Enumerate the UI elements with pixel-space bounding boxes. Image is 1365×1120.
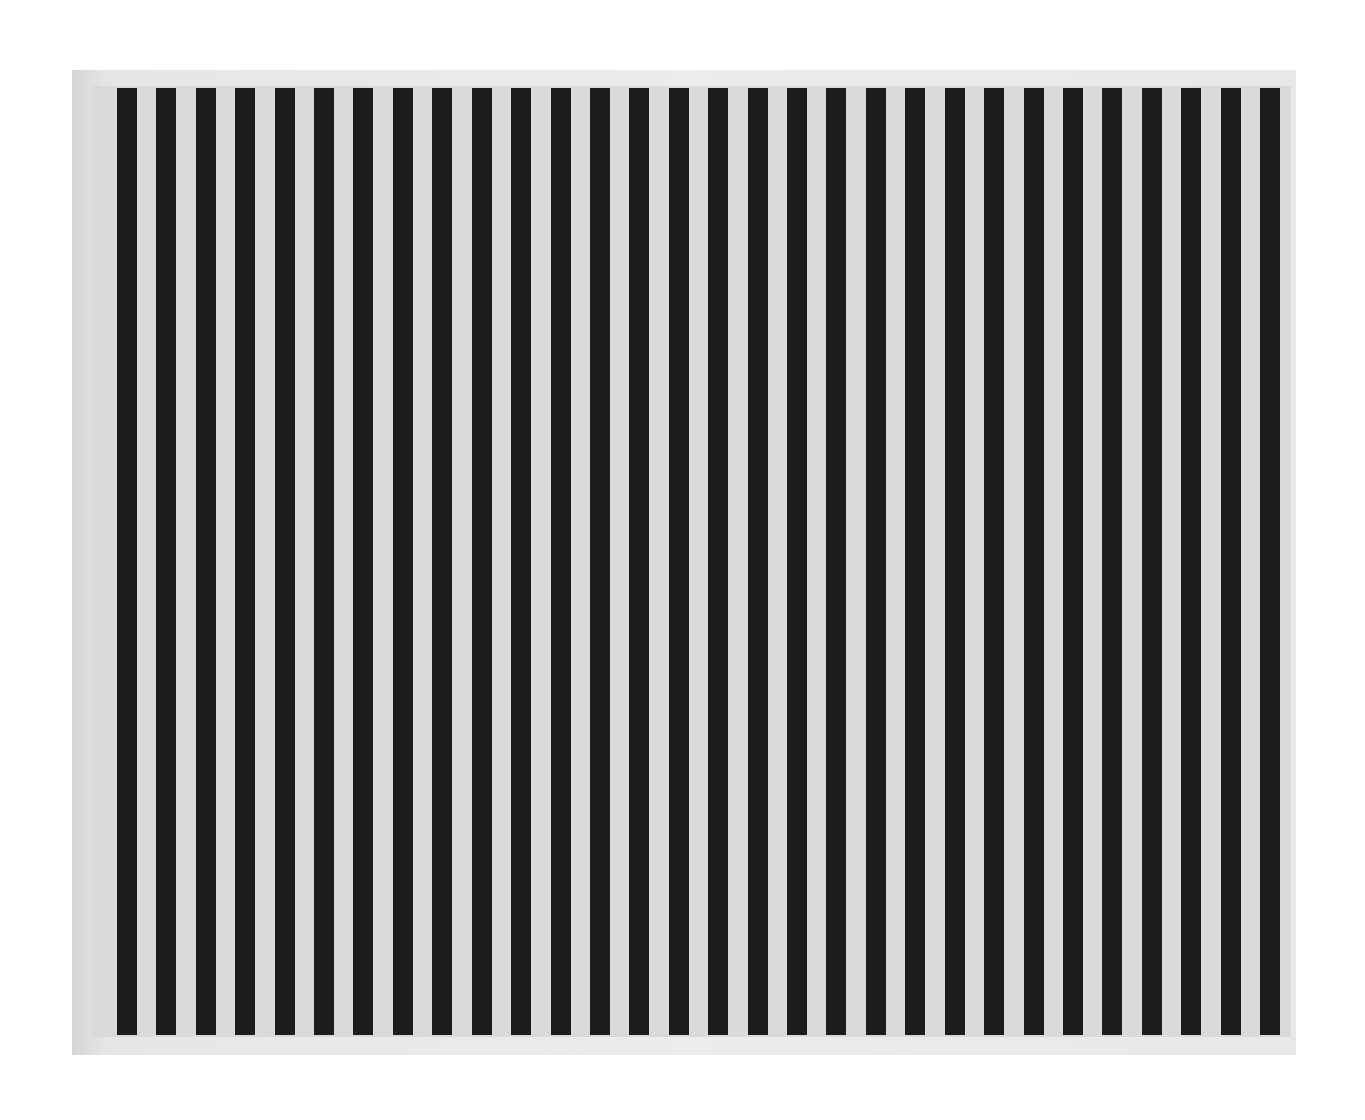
dark-stripe <box>314 88 334 1035</box>
dark-stripe <box>1142 88 1162 1035</box>
dark-stripe <box>748 88 768 1035</box>
dark-stripe <box>156 88 176 1035</box>
dark-stripe <box>1102 88 1122 1035</box>
dark-stripe <box>196 88 216 1035</box>
dark-stripe <box>1221 88 1241 1035</box>
dark-stripe <box>826 88 846 1035</box>
dark-stripe <box>551 88 571 1035</box>
dark-stripe <box>629 88 649 1035</box>
dark-stripe <box>393 88 413 1035</box>
dark-stripe <box>866 88 886 1035</box>
dark-stripe <box>432 88 452 1035</box>
striped-canvas <box>92 86 1291 1037</box>
dark-stripe <box>905 88 925 1035</box>
dark-stripe <box>353 88 373 1035</box>
dark-stripe <box>275 88 295 1035</box>
dark-stripe <box>235 88 255 1035</box>
dark-stripe <box>787 88 807 1035</box>
dark-stripe <box>117 88 137 1035</box>
dark-stripe <box>1063 88 1083 1035</box>
dark-stripe <box>669 88 689 1035</box>
dark-stripe <box>1024 88 1044 1035</box>
dark-stripe <box>1260 88 1280 1035</box>
dark-stripe <box>945 88 965 1035</box>
dark-stripe <box>1181 88 1201 1035</box>
dark-stripe <box>984 88 1004 1035</box>
dark-stripe <box>472 88 492 1035</box>
dark-stripe <box>708 88 728 1035</box>
dark-stripe <box>511 88 531 1035</box>
dark-stripe <box>590 88 610 1035</box>
